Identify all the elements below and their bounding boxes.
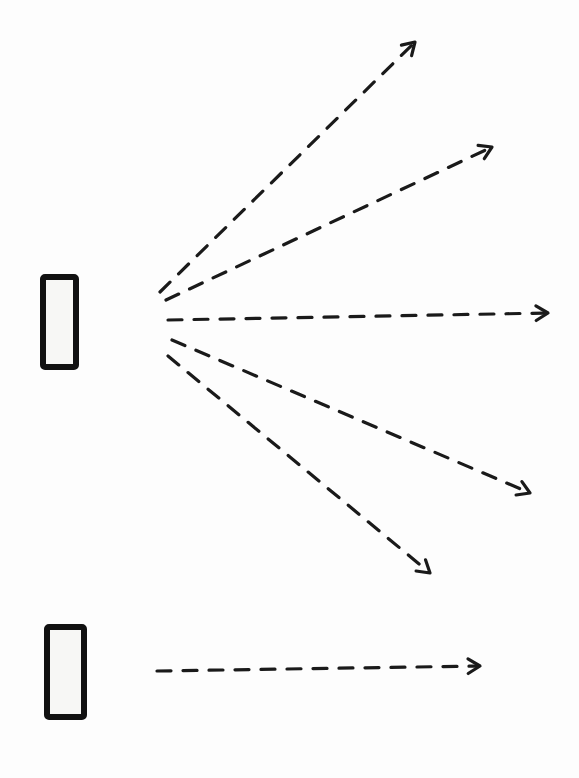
arrow-shaft (166, 149, 488, 300)
dashed-arrow (172, 340, 530, 495)
dashed-arrow (168, 306, 548, 321)
arrow-shaft (168, 313, 544, 320)
arrow-shaft (172, 340, 526, 491)
dashed-arrow (157, 659, 480, 674)
diagram-canvas (0, 0, 579, 778)
dashed-arrow (166, 145, 492, 300)
bottom-emitter (47, 627, 480, 717)
diagram-layer (43, 42, 548, 717)
emitter-rectangle (43, 277, 76, 367)
dashed-arrow (160, 42, 415, 292)
arrow-shaft (157, 666, 476, 671)
top-emitter (43, 42, 548, 573)
dashed-arrow (168, 356, 430, 573)
arrow-shaft (160, 45, 412, 292)
arrow-shaft (168, 356, 427, 570)
emitter-rectangle (47, 627, 84, 717)
